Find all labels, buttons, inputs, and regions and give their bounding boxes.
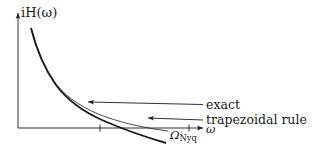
curve-trapezoidal-rule xyxy=(31,28,166,143)
x-tick-label-nyquist: ΩNyq xyxy=(170,130,197,142)
annotation-label-exact: exact xyxy=(206,99,240,112)
y-axis-label: iH(ω) xyxy=(21,6,57,19)
arrow-trapezoidal-rule xyxy=(148,118,203,120)
arrow-exact xyxy=(88,102,203,105)
plot-canvas xyxy=(0,0,315,162)
y-axis-label-text: iH(ω) xyxy=(21,5,57,20)
nyquist-symbol: Ω xyxy=(170,128,180,142)
figure-container: iH(ω) ω ΩNyq exact trapezoidal rule xyxy=(0,0,315,162)
nyquist-subscript: Nyq xyxy=(180,133,197,143)
annotation-label-trapezoidal-rule: trapezoidal rule xyxy=(206,114,307,127)
